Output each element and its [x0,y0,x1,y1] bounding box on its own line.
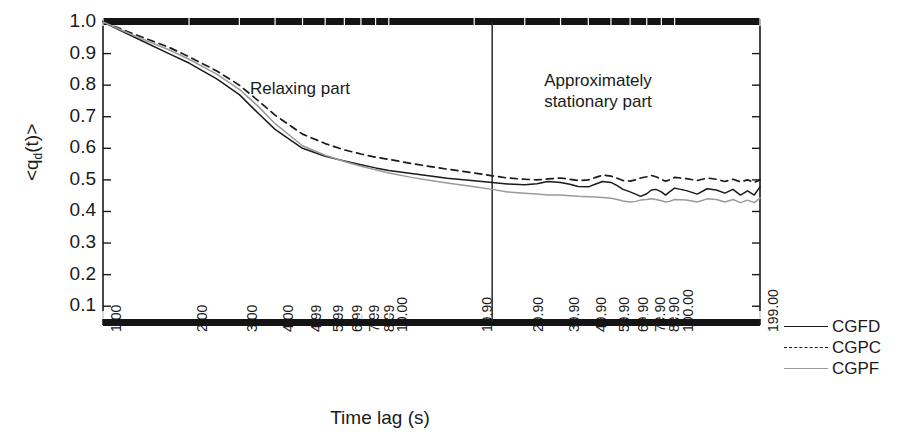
legend-label: CGPF [832,359,879,379]
legend-line-swatch [784,347,828,348]
legend-line-swatch [784,326,828,327]
plot-annotation: Approximately stationary part [488,70,708,113]
legend-item-cgfd[interactable]: CGFD [784,316,905,337]
legend: CGFDCGPCCGPF [784,316,905,379]
plot-annotation: Relaxing part [190,78,410,99]
legend-item-cgpf[interactable]: CGPF [784,358,905,379]
legend-line-swatch [784,368,828,369]
plot-canvas [0,0,905,447]
legend-label: CGPC [832,338,881,358]
legend-item-cgpc[interactable]: CGPC [784,337,905,358]
legend-label: CGFD [832,317,880,337]
plot-bottom-border [103,319,760,326]
